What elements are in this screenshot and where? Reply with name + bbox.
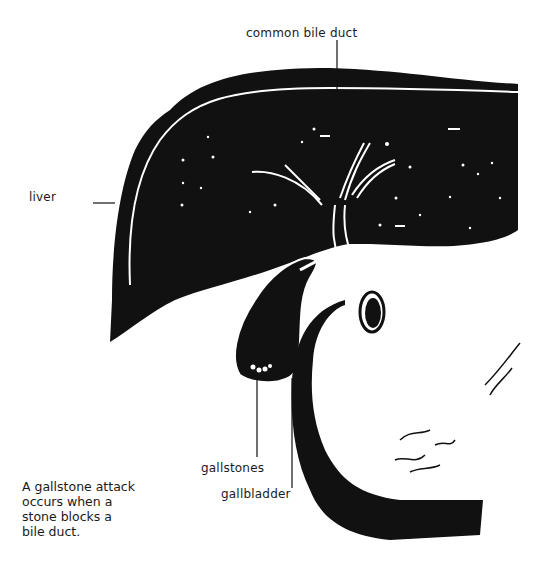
duodenum-shape bbox=[292, 300, 483, 540]
liver-label: liver bbox=[29, 190, 56, 204]
caption: A gallstone attack occurs when a stone b… bbox=[22, 479, 192, 539]
gallbladder-label: gallbladder bbox=[221, 487, 291, 501]
pancreas-sketch bbox=[395, 343, 520, 472]
liver-shape bbox=[110, 68, 518, 342]
common-bile-duct-label: common bile duct bbox=[246, 26, 357, 40]
gallstones-label: gallstones bbox=[201, 461, 264, 475]
